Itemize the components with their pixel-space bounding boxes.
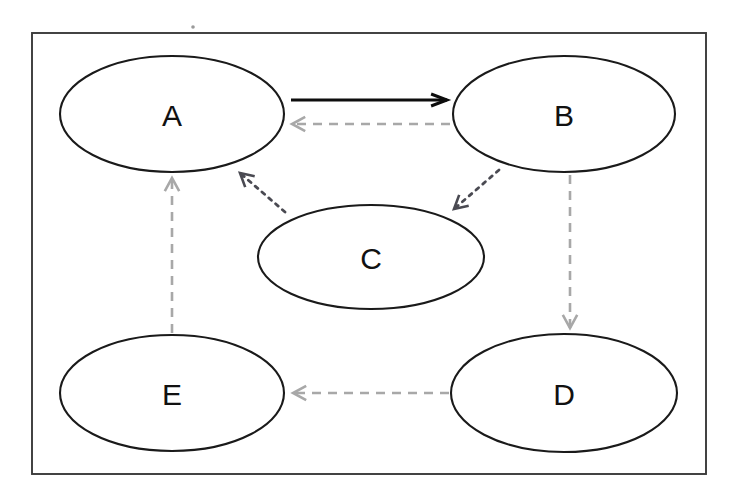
diagram-canvas: A B C E D	[0, 0, 736, 500]
node-c-label: C	[360, 242, 382, 275]
edge-a-to-b	[291, 94, 447, 106]
edge-b-to-a	[292, 117, 450, 131]
scan-speck	[191, 25, 195, 29]
node-a[interactable]: A	[60, 56, 284, 172]
state-diagram: A B C E D	[0, 0, 736, 500]
node-e[interactable]: E	[60, 335, 284, 451]
node-c[interactable]: C	[258, 205, 484, 309]
node-d-label: D	[553, 378, 575, 411]
node-b-label: B	[554, 99, 574, 132]
node-a-label: A	[162, 99, 182, 132]
edge-c-to-a	[240, 173, 285, 212]
edge-b-to-c	[454, 170, 499, 209]
edge-d-to-e	[293, 386, 449, 400]
edge-b-to-d	[563, 175, 577, 328]
node-d[interactable]: D	[451, 334, 677, 452]
edge-e-to-a	[165, 178, 179, 333]
node-e-label: E	[162, 378, 182, 411]
node-b[interactable]: B	[453, 56, 675, 172]
